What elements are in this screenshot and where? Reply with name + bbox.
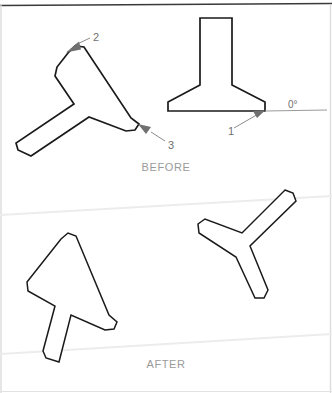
- callout-label-2: 2: [93, 31, 99, 43]
- panel-caption-before: BEFORE: [0, 161, 332, 173]
- callout-label-3: 3: [168, 139, 174, 151]
- zero-degree-label: 0°: [288, 99, 298, 110]
- figure-canvas: [0, 0, 332, 393]
- callout-label-1: 1: [228, 125, 234, 137]
- panel-caption-after: AFTER: [0, 358, 332, 370]
- figure-container: BEFORE AFTER 1 2 3 0°: [0, 0, 332, 393]
